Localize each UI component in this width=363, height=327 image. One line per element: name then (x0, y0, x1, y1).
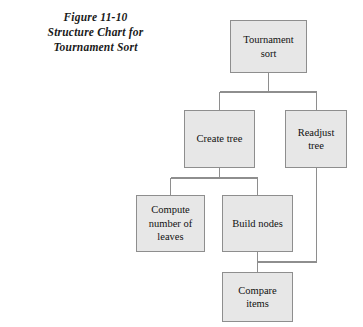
structure-chart-figure: Figure 11-10 Structure Chart for Tournam… (0, 0, 363, 327)
node-compare-items-label: Compare items (234, 284, 281, 311)
node-create-tree-label: Create tree (193, 132, 247, 146)
figure-caption-line-2: Structure Chart for (8, 25, 183, 40)
figure-caption-line-1: Figure 11-10 (8, 10, 183, 25)
node-readjust-tree-label: Readjust tree (294, 126, 339, 153)
node-build-nodes[interactable]: Build nodes (222, 195, 293, 252)
node-tournament-sort[interactable]: Tournament sort (230, 20, 307, 73)
node-compute-number-of-leaves[interactable]: Compute number of leaves (136, 195, 205, 252)
node-tournament-sort-label: Tournament sort (239, 33, 298, 60)
node-create-tree[interactable]: Create tree (184, 110, 255, 168)
node-compute-number-of-leaves-label: Compute number of leaves (145, 203, 196, 244)
node-compare-items[interactable]: Compare items (222, 272, 293, 322)
node-build-nodes-label: Build nodes (228, 217, 286, 231)
node-readjust-tree[interactable]: Readjust tree (285, 110, 347, 168)
figure-caption: Figure 11-10 Structure Chart for Tournam… (8, 10, 183, 55)
figure-caption-line-3: Tournament Sort (8, 40, 183, 55)
